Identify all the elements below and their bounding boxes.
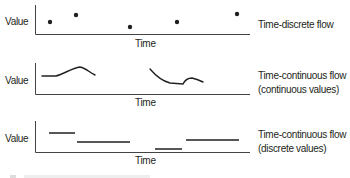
panel-2-axes — [36, 63, 251, 95]
panel-2-description-line-2: (continuous values) — [258, 83, 339, 96]
panel-3-y-label: Value — [5, 133, 28, 145]
panel-3-x-label: Time — [135, 155, 156, 167]
panel-3-steps — [49, 133, 239, 149]
panel-1-description: Time-discrete flow — [258, 18, 333, 31]
panel-3-description-line-2: (discrete values) — [258, 142, 326, 155]
panel-2-description-line-1: Time-continuous flow — [258, 69, 346, 82]
panel-1-x-label: Time — [135, 38, 156, 50]
panel-1-axes — [36, 5, 251, 35]
panel-3-axes — [36, 121, 251, 153]
panel-2-curves — [42, 67, 203, 84]
cropped-caption-edge — [10, 175, 150, 178]
panel-2-x-label: Time — [135, 97, 156, 109]
panel-1-y-label: Value — [5, 16, 28, 28]
panel-2-y-label: Value — [5, 75, 28, 87]
panel-3-description-line-1: Time-continuous flow — [258, 128, 346, 141]
panel-1-dots — [48, 12, 239, 29]
